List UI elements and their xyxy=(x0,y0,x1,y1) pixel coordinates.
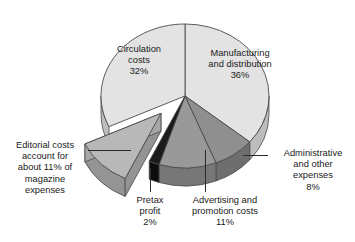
manufacturing-line2: and distribution xyxy=(208,59,271,69)
slice-label-circulation: Circulation costs 32% xyxy=(96,44,182,78)
pie-chart: Circulation costs 32% Manufacturing and … xyxy=(0,0,355,242)
administrative-line1: Administrative xyxy=(284,148,343,158)
callout-label-pretax-profit: Pretax profit 2% xyxy=(120,195,180,229)
administrative-line3: expenses xyxy=(293,170,333,180)
pretax-line2: profit xyxy=(140,206,161,216)
pretax-line1: Pretax xyxy=(137,195,164,205)
editorial-line4: magazine xyxy=(25,174,65,184)
callout-label-editorial: Editorial costs account for about 11% of… xyxy=(2,140,88,196)
advertising-line1: Advertising and xyxy=(193,195,257,205)
callout-label-advertising: Advertising and promotion costs 11% xyxy=(176,195,274,229)
administrative-percent: 8% xyxy=(272,182,354,193)
callout-label-administrative: Administrative and other expenses 8% xyxy=(272,148,354,193)
circulation-percent: 32% xyxy=(96,66,182,77)
circulation-line1: Circulation xyxy=(117,44,161,54)
advertising-percent: 11% xyxy=(176,217,274,228)
manufacturing-percent: 36% xyxy=(188,70,292,81)
manufacturing-line1: Manufacturing xyxy=(210,48,269,58)
editorial-line3: about 11% of xyxy=(18,162,72,172)
editorial-line1: Editorial costs xyxy=(16,140,74,150)
circulation-line2: costs xyxy=(128,55,150,65)
administrative-line2: and other xyxy=(293,159,332,169)
slice-label-manufacturing: Manufacturing and distribution 36% xyxy=(188,48,292,82)
pretax-percent: 2% xyxy=(120,217,180,228)
editorial-line5: expenses xyxy=(25,185,65,195)
editorial-line2: account for xyxy=(22,151,68,161)
advertising-line2: promotion costs xyxy=(192,206,258,216)
